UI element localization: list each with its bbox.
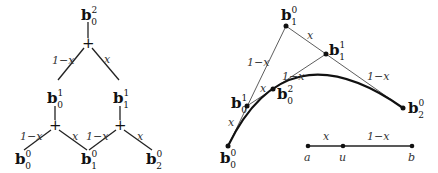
de-casteljau-diagram: + + + 1−x x 1−x x 1−x x b20 b10 b11 b00 … [0,0,438,173]
weight-label: x [260,82,267,95]
label-b10: b01 [281,5,298,27]
weight-label: 1−x [86,130,109,143]
plus-node-right: + [114,116,127,134]
weight-label: x [72,130,79,143]
plus-node-left: + [49,116,62,134]
weight-label: 1−x [282,70,305,83]
weight-label: x [104,53,111,66]
label-a: a [304,151,311,164]
label-b02: b20 [277,84,293,106]
weight-label: 1−x [52,54,75,67]
point-a [306,144,311,149]
weight-label: x [228,116,235,129]
point-b11 [324,52,329,57]
parameter-segment: x 1−x a u b [304,130,415,164]
point-u [341,144,346,149]
label-u: u [339,151,346,164]
weight-label: 1−x [20,130,43,143]
weight-label: x [307,29,314,42]
point-b02 [271,87,276,92]
label-b11: b11 [329,40,345,62]
weight-label: 1−x [247,56,270,69]
de-casteljau-tree: + + + 1−x x 1−x x 1−x x b20 b10 b11 b00 … [15,5,163,171]
tree-node-b01: b10 [47,88,63,110]
label-b00: b00 [220,148,237,170]
tree-node-b11: b11 [113,88,129,110]
tree-node-b10: b01 [81,149,98,171]
control-point-b20 [401,106,406,111]
label-b20: b02 [408,98,425,120]
label-b01: b10 [231,93,247,115]
segment-weight-left: x [323,130,330,143]
bezier-construction: 1−x x 1−x x 1−x x b00 b01 b02 b10 b11 b2… [220,5,425,170]
tree-node-b00: b00 [15,149,32,171]
segment-weight-right: 1−x [367,130,390,143]
control-point-b10 [284,24,289,29]
label-b: b [408,151,415,164]
plus-node-top: + [82,34,95,52]
weight-label: x [137,130,144,143]
tree-node-b02: b20 [81,5,97,27]
tree-node-b20: b02 [146,149,163,171]
weight-label: 1−x [367,70,390,83]
point-b [410,144,415,149]
